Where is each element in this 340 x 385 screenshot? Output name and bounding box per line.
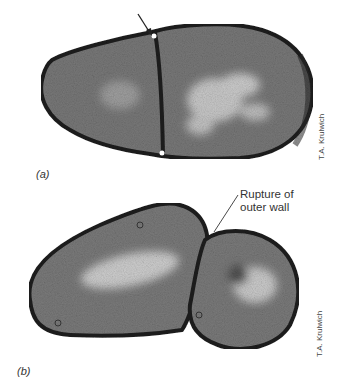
cell-b bbox=[29, 204, 298, 349]
panel-label-b: (b) bbox=[17, 365, 30, 377]
cell-a bbox=[41, 24, 312, 158]
photo-credit-b: T.A. Krulwich bbox=[315, 311, 324, 357]
septum-gap-bottom bbox=[160, 151, 165, 156]
rupture-annotation: Rupture of outer wall bbox=[240, 188, 294, 214]
septum-gap-top bbox=[152, 34, 157, 39]
micrograph-figure: (a) (b) T.A. Krulwich T.A. Krulwich Rupt… bbox=[0, 0, 340, 385]
rupture-annotation-line2: outer wall bbox=[240, 201, 294, 214]
rupture-annotation-line1: Rupture of bbox=[240, 188, 294, 201]
panel-label-a: (a) bbox=[36, 168, 49, 180]
rupture-pointer-line bbox=[214, 195, 238, 232]
photo-credit-a: T.A. Krulwich bbox=[317, 114, 326, 160]
